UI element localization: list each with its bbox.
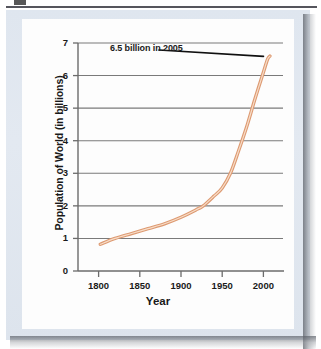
- population-curve: [100, 56, 270, 244]
- x-tick-marks-group: [99, 271, 264, 277]
- y-tick-label: 0: [54, 265, 68, 276]
- scan-smudge-mark: [14, 0, 26, 5]
- population-line-chart: 01234567 18001850190019502000 6.5 billio…: [22, 19, 294, 329]
- x-axis-title: Year: [22, 295, 294, 307]
- x-tick-label: 1900: [161, 280, 201, 291]
- y-axis-title: Population of World (in billions): [53, 43, 65, 263]
- figure-screenshot: 01234567 18001850190019502000 6.5 billio…: [0, 0, 321, 349]
- page-top-rule: [6, 6, 317, 8]
- panel-shadow-right: [303, 14, 316, 349]
- x-tick-label: 1950: [202, 280, 242, 291]
- figure-card: 01234567 18001850190019502000 6.5 billio…: [22, 19, 294, 329]
- x-tick-label: 2000: [243, 280, 283, 291]
- gridlines-group: [78, 43, 283, 238]
- x-tick-label: 1850: [120, 280, 160, 291]
- panel-shadow-bottom: [10, 336, 316, 349]
- y-tick-marks-group: [73, 43, 78, 271]
- x-tick-label: 1800: [79, 280, 119, 291]
- annotation-label: 6.5 billion in 2005: [110, 43, 183, 53]
